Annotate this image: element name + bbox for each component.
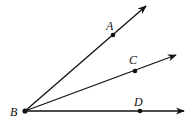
point-d-dot (138, 109, 143, 114)
ray-BA (25, 6, 146, 111)
vertex-b-dot (22, 108, 27, 113)
ray-BC (25, 55, 176, 111)
point-d-label: D (133, 95, 143, 109)
rays-diagram: ACDB (0, 0, 196, 122)
point-c-label: C (129, 53, 138, 67)
point-a-dot (111, 33, 116, 38)
vertex-b-label: B (10, 105, 18, 119)
point-a-label: A (105, 19, 114, 33)
point-c-dot (133, 69, 138, 74)
